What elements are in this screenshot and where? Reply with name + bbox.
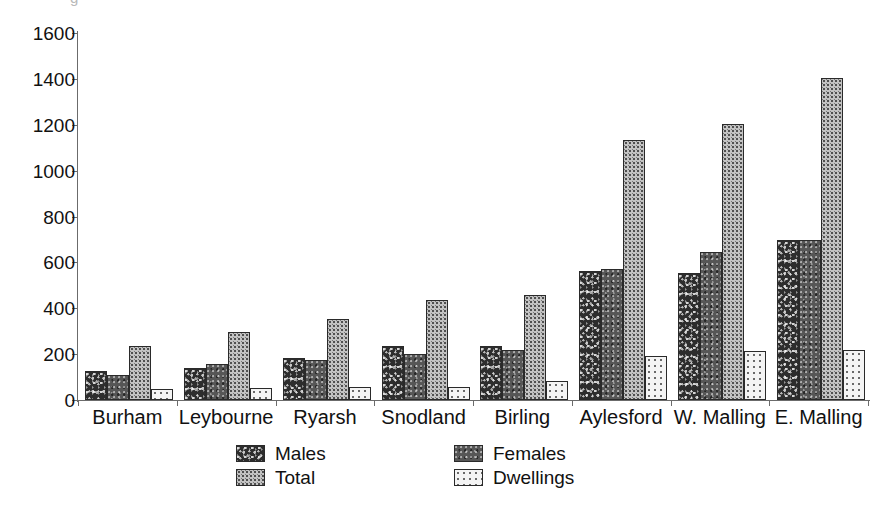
y-axis-tick-label: 800 (5, 208, 75, 227)
bar-dwellings-ryarsh[interactable] (349, 387, 371, 400)
bar-total-e-malling[interactable] (821, 78, 843, 400)
bar-males-leybourne[interactable] (184, 368, 206, 400)
bar-total-w-malling[interactable] (722, 124, 744, 400)
legend-swatch-females-icon (454, 445, 483, 462)
bar-dwellings-burham[interactable] (151, 389, 173, 400)
x-axis-tick (473, 401, 474, 406)
x-axis-tick (276, 401, 277, 406)
bar-group (678, 33, 766, 400)
legend-swatch-males-icon (236, 445, 265, 462)
bar-dwellings-w-malling[interactable] (744, 351, 766, 400)
bar-females-birling[interactable] (502, 350, 524, 400)
x-axis-tick (374, 401, 375, 406)
bar-total-leybourne[interactable] (228, 332, 250, 400)
bar-females-w-malling[interactable] (700, 252, 722, 400)
y-axis-tick-label: 1400 (5, 70, 75, 89)
legend-item-males[interactable]: Males (236, 444, 326, 463)
bar-females-aylesford[interactable] (601, 269, 623, 400)
bar-total-ryarsh[interactable] (327, 319, 349, 400)
y-axis-tick-label: 1200 (5, 116, 75, 135)
bar-total-birling[interactable] (524, 295, 546, 400)
bar-dwellings-leybourne[interactable] (250, 388, 272, 400)
bar-group (85, 33, 173, 400)
bar-males-ryarsh[interactable] (283, 358, 305, 400)
legend-swatch-dwellings-icon (454, 469, 483, 486)
legend-swatch-total-icon (236, 469, 265, 486)
bar-total-aylesford[interactable] (623, 140, 645, 400)
x-axis-tick (769, 401, 770, 406)
plot-area (78, 33, 868, 400)
bar-group (382, 33, 470, 400)
y-axis-tick-label: 1600 (5, 24, 75, 43)
bar-group (184, 33, 272, 400)
bar-males-w-malling[interactable] (678, 273, 700, 400)
y-axis-tick-label: 1000 (5, 162, 75, 181)
bar-males-burham[interactable] (85, 371, 107, 400)
bar-group (480, 33, 568, 400)
legend-item-total[interactable]: Total (236, 468, 315, 487)
y-axis-tick-label: 200 (5, 345, 75, 364)
bar-group (579, 33, 667, 400)
legend-row-1: Males Females (236, 444, 656, 468)
y-axis-tick-label: 400 (5, 299, 75, 318)
chart-legend: Males Females Total Dwellings (236, 444, 656, 492)
bar-males-birling[interactable] (480, 346, 502, 400)
x-axis-tick (572, 401, 573, 406)
bar-females-ryarsh[interactable] (305, 360, 327, 400)
bar-group (777, 33, 865, 400)
x-axis-tick (177, 401, 178, 406)
bar-dwellings-aylesford[interactable] (645, 356, 667, 400)
bar-chart: g 02004006008001000120014001600 BurhamLe… (0, 0, 887, 521)
bar-group (283, 33, 371, 400)
bar-females-burham[interactable] (107, 375, 129, 400)
legend-item-dwellings[interactable]: Dwellings (454, 468, 574, 487)
bar-males-snodland[interactable] (382, 346, 404, 400)
bar-dwellings-birling[interactable] (546, 381, 568, 400)
legend-label-females: Females (493, 444, 566, 463)
bar-total-snodland[interactable] (426, 300, 448, 400)
legend-label-dwellings: Dwellings (493, 468, 574, 487)
bar-females-e-malling[interactable] (799, 240, 821, 400)
x-axis-label-e-malling: E. Malling (755, 406, 882, 428)
bar-males-e-malling[interactable] (777, 240, 799, 400)
clipped-title-fragment: g (70, 0, 80, 6)
bar-males-aylesford[interactable] (579, 271, 601, 400)
x-axis-tick (868, 401, 869, 406)
legend-label-males: Males (275, 444, 326, 463)
x-axis-tick (78, 401, 79, 406)
bar-total-burham[interactable] (129, 346, 151, 400)
y-axis-tick-label: 600 (5, 253, 75, 272)
legend-label-total: Total (275, 468, 315, 487)
bar-females-snodland[interactable] (404, 354, 426, 400)
bar-dwellings-e-malling[interactable] (843, 350, 865, 400)
bar-females-leybourne[interactable] (206, 364, 228, 400)
legend-row-2: Total Dwellings (236, 468, 656, 492)
bar-dwellings-snodland[interactable] (448, 387, 470, 400)
x-axis-tick (671, 401, 672, 406)
legend-item-females[interactable]: Females (454, 444, 566, 463)
